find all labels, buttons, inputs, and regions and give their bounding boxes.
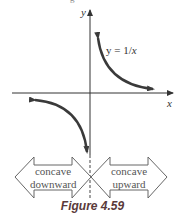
equation-variable: x [132,44,137,56]
figure-caption: Figure 4.59 [0,199,185,213]
x-axis-label: x [167,98,172,109]
curve-equation-label: y = 1/x [106,45,137,56]
equation-text: y = 1/ [106,44,132,56]
graph-svg [0,0,185,215]
region-label-line: concave [106,165,152,178]
region-label-line: downward [30,178,76,191]
y-axis-label: y [81,7,86,18]
region-label-line: concave [30,165,76,178]
region-label-line: upward [106,178,152,191]
curve-lower-branch [35,100,87,152]
region-label-concave-downward: concave downward [30,165,76,191]
region-label-concave-upward: concave upward [106,165,152,191]
